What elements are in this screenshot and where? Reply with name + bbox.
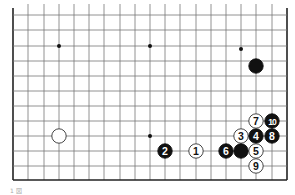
white-stone <box>52 129 66 143</box>
black-stone <box>234 144 248 158</box>
move-number: 10 <box>268 117 277 127</box>
star-point <box>148 44 152 48</box>
black-stone <box>249 59 263 73</box>
diagram-caption: 1 図 <box>10 186 22 195</box>
move-number: 9 <box>253 160 259 172</box>
star-point <box>239 47 243 51</box>
go-board: 12345678910 <box>0 0 295 195</box>
move-number: 8 <box>269 130 275 142</box>
move-number: 1 <box>193 145 199 157</box>
move-number: 5 <box>253 145 259 157</box>
move-number: 7 <box>253 115 259 127</box>
move-number: 3 <box>238 130 244 142</box>
star-point <box>57 44 61 48</box>
move-number: 4 <box>253 130 259 142</box>
move-number: 2 <box>162 145 168 157</box>
star-point <box>148 134 152 138</box>
move-number: 6 <box>223 145 229 157</box>
